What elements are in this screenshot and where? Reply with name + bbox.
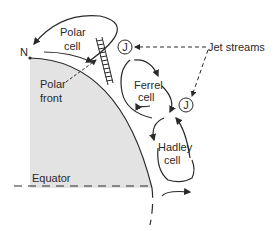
jet-stream-upper: J: [118, 40, 132, 54]
ferrel-cell-label: Ferrel: [134, 79, 163, 91]
polar-cell-arrow-top: [34, 16, 117, 62]
ferrel-cell-label-2: cell: [138, 91, 155, 103]
hadley-cell-label: Hadley: [158, 141, 193, 153]
polar-cell-label-2: cell: [64, 40, 81, 52]
polar-front-ladder: [96, 37, 113, 85]
hadley-cell-loop: [153, 118, 164, 140]
hadley-cell-label-2: cell: [164, 154, 181, 166]
svg-text:J: J: [183, 99, 189, 111]
jet-streams-label: Jet streams: [208, 41, 265, 53]
polar-cell-label: Polar: [60, 26, 86, 38]
north-label: N: [20, 46, 28, 58]
svg-text:J: J: [122, 41, 128, 53]
equator-label: Equator: [32, 172, 71, 184]
jet-stream-lower: J: [179, 98, 193, 112]
polar-front-label-2: front: [40, 92, 62, 104]
polar-front-label: Polar: [40, 78, 66, 90]
circulation-diagram: J J N Polar cell Polar front Ferrel cell…: [0, 0, 278, 231]
